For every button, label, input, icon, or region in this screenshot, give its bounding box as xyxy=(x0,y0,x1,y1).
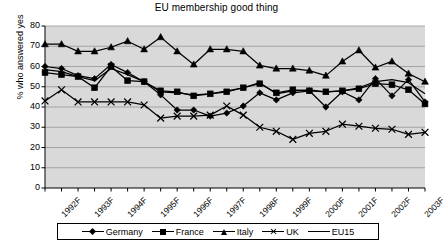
legend-item-uk[interactable]: UK xyxy=(262,227,299,237)
legend-label: UK xyxy=(286,227,299,237)
line-marker-icon xyxy=(308,227,330,237)
legend-label: EU15 xyxy=(332,227,355,237)
x-axis-ticks xyxy=(45,188,425,192)
legend-item-italy[interactable]: Italy xyxy=(213,227,254,237)
square-marker-icon xyxy=(152,227,174,237)
legend-item-eu15[interactable]: EU15 xyxy=(308,227,355,237)
legend-item-germany[interactable]: Germany xyxy=(82,227,143,237)
legend-label: Germany xyxy=(106,227,143,237)
diamond-marker-icon xyxy=(82,227,104,237)
chart-legend: GermanyFranceItalyUKEU15 xyxy=(57,223,379,240)
legend-item-france[interactable]: France xyxy=(152,227,204,237)
cross-marker-icon xyxy=(262,227,284,237)
triangle-marker-icon xyxy=(213,227,235,237)
legend-label: France xyxy=(176,227,204,237)
y-axis-ticks xyxy=(42,26,46,188)
legend-label: Italy xyxy=(237,227,254,237)
